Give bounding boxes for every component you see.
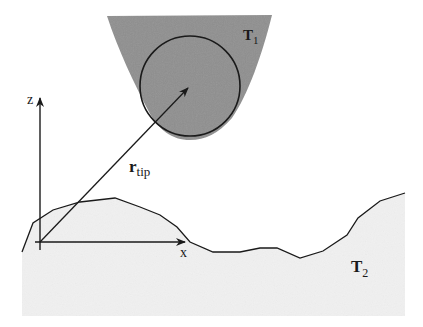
vector-label-sub: tip [137, 164, 151, 179]
z-axis-label: z [27, 92, 33, 107]
surface-label-main: T [351, 257, 363, 276]
surface-label-sub: 2 [362, 266, 368, 280]
sample-surface [22, 193, 405, 316]
vector-label: rtip [129, 157, 150, 179]
surface-fill [22, 193, 405, 316]
diagram-canvas: z x rtip T1 T2 [0, 0, 423, 327]
tip-label-sub: 1 [253, 34, 259, 46]
tip-label-main: T [243, 27, 253, 43]
x-axis-label: x [180, 245, 187, 260]
